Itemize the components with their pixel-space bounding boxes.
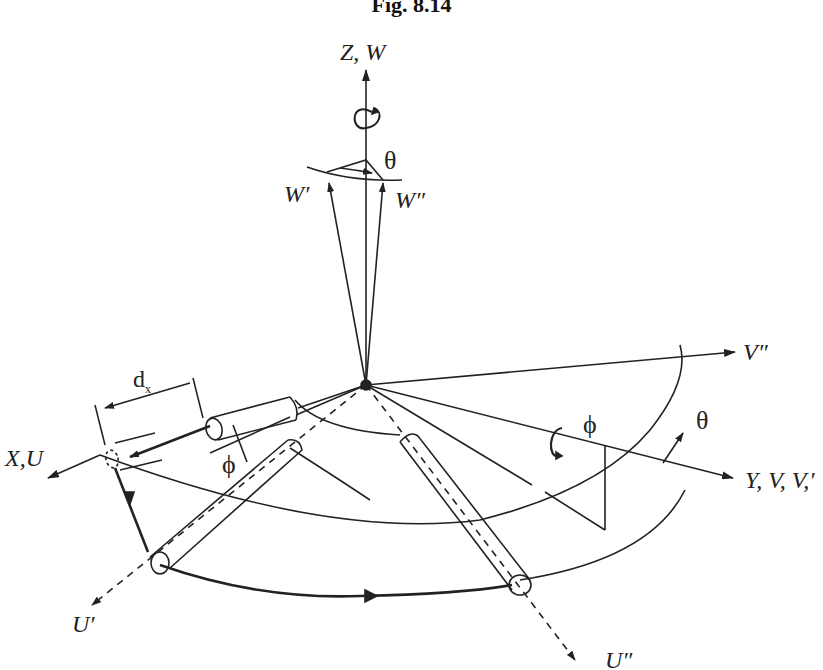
u-prime-label: U′ [72,612,95,636]
theta-top-label: θ [384,148,396,174]
v-double-prime-axis [366,352,735,385]
phi-left-label: ϕ [222,452,236,478]
y-axis-label: Y, V, V,′ [745,468,815,492]
y-axis [366,385,733,478]
rotation-path [160,565,512,596]
dx-label: dx [133,367,151,395]
theta-right-label: θ [696,408,708,434]
w-double-prime-axis [366,183,383,385]
figure-caption: Fig. 8.14 [0,0,823,18]
w-double-prime-label: W″ [395,188,425,212]
fiber-top [203,385,366,442]
phi-right-label: ϕ [583,412,597,438]
z-axis-label: Z, W [340,40,385,64]
x-axis-label: X,U [5,446,43,470]
u-double-prime-axis [366,385,575,660]
figure-diagram: Fig. 8.14 Z, W θ W′ W″ V″ Y, V, V,′ X,U … [0,0,823,670]
fiber-right [400,434,531,595]
u-double-prime-label: U″ [605,648,632,670]
diagram-canvas [0,0,823,670]
w-prime-axis [329,183,366,385]
w-prime-label: W′ [284,182,309,206]
v-double-prime-label: V″ [743,340,768,364]
